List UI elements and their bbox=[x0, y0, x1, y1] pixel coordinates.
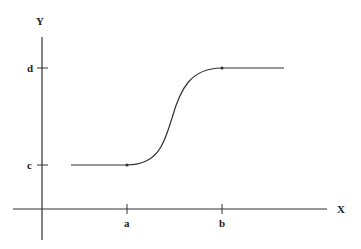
point-b-d bbox=[220, 66, 223, 69]
y-tick-label-d: d bbox=[27, 62, 33, 74]
point-a-c bbox=[125, 163, 128, 166]
x-tick-label-b: b bbox=[219, 217, 225, 229]
sigmoid-diagram: Y X d c a b bbox=[0, 0, 361, 249]
x-axis-label: X bbox=[337, 203, 345, 215]
y-axis-label: Y bbox=[36, 15, 44, 27]
x-tick-label-a: a bbox=[124, 217, 130, 229]
sigmoid-curve bbox=[71, 68, 284, 165]
y-tick-label-c: c bbox=[27, 159, 32, 171]
